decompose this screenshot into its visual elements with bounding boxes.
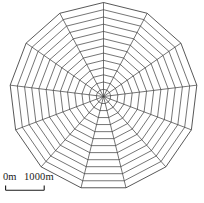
- map-scale-bar: 0m 1000m: [3, 170, 75, 198]
- scale-bar-bracket-icon: [5, 185, 45, 191]
- scale-bar-end-label: 1000m: [24, 170, 54, 183]
- scale-bar-labels: 0m 1000m: [3, 170, 75, 183]
- scale-bar-start-label: 0m: [3, 170, 17, 183]
- figure-root: 0m 1000m: [0, 0, 204, 203]
